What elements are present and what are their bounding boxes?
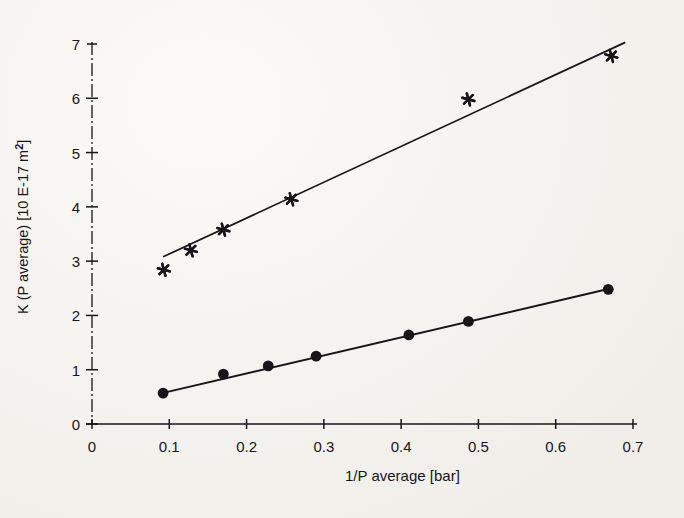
x-axis-title: 1/P average [bar]	[345, 467, 460, 484]
x-tick-label: 0.5	[468, 438, 489, 455]
series-fit-line	[160, 288, 611, 393]
data-point-circle	[603, 284, 614, 295]
y-tick-label: 3	[58, 253, 80, 270]
data-point-circle	[403, 330, 414, 341]
asterisk-core	[221, 228, 225, 232]
y-axis-title-text: K (P average) [10 E-17 m	[15, 150, 31, 314]
x-tick-label: 0.3	[313, 438, 334, 455]
data-point-asterisk	[605, 50, 617, 62]
series-fit-line	[163, 42, 625, 256]
x-tick-label: 0.2	[236, 438, 257, 455]
y-tick-label: 5	[58, 144, 80, 161]
y-axis-title-exponent: 2	[13, 144, 25, 150]
y-tick-label: 0	[58, 416, 80, 433]
figure-container: 0123456700.10.20.30.40.50.60.7 K (P aver…	[0, 0, 684, 518]
x-tick-label: 0	[88, 438, 96, 455]
x-tick-label: 0.7	[623, 438, 644, 455]
asterisk-core	[189, 248, 193, 252]
y-axis-title: K (P average) [10 E-17 m2]	[13, 154, 32, 314]
asterisk-core	[609, 54, 613, 58]
plot-canvas	[0, 0, 684, 518]
data-point-asterisk	[217, 224, 229, 236]
data-point-circle	[311, 351, 322, 362]
asterisk-core	[162, 268, 166, 272]
x-tick-label: 0.1	[159, 438, 180, 455]
data-point-circle	[463, 316, 474, 327]
asterisk-core	[466, 97, 470, 101]
data-point-circle	[158, 388, 169, 399]
y-tick-label: 4	[58, 198, 80, 215]
data-point-circle	[263, 361, 274, 372]
asterisk-core	[289, 197, 293, 201]
data-point-asterisk	[462, 93, 474, 105]
y-tick-label: 2	[58, 307, 80, 324]
data-point-asterisk	[285, 193, 297, 205]
x-tick-label: 0.6	[545, 438, 566, 455]
y-tick-label: 6	[58, 90, 80, 107]
y-axis-title-suffix: ]	[15, 140, 31, 144]
data-point-circle	[218, 369, 229, 380]
x-tick-label: 0.4	[391, 438, 412, 455]
y-tick-label: 1	[58, 361, 80, 378]
y-tick-label: 7	[58, 36, 80, 53]
data-point-asterisk	[158, 264, 170, 276]
